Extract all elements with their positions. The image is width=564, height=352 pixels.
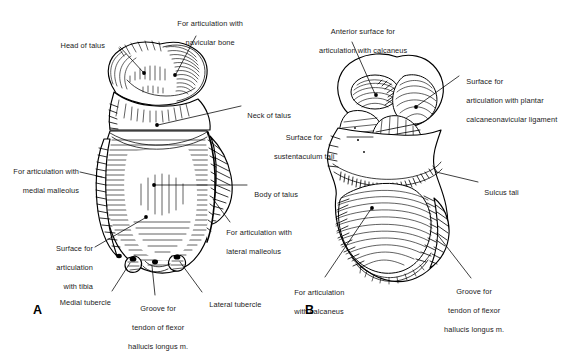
leader-lateral-tubercle	[180, 262, 202, 292]
label-sustentaculum-line1: Surface for	[286, 133, 323, 142]
label-body-of-talus: Body of talus	[250, 180, 340, 199]
label-articulation-medial-malleolus: For articulation with medial malleolus	[0, 157, 79, 195]
panel-letter-a: A	[33, 303, 42, 317]
label-medial-malleolus-line2: medial malleolus	[23, 186, 79, 195]
panel-a-drawing	[96, 41, 232, 273]
label-articulation-navicular-line1: For articulation with	[177, 19, 243, 28]
dot-navicular	[173, 73, 177, 77]
label-plantar-lig-line3: calcaneonavicular ligament	[466, 115, 557, 124]
label-head-of-talus: Head of talus	[10, 31, 105, 50]
label-sulcus-tali-text: Sulcus tali	[484, 188, 519, 197]
dot-neck	[155, 123, 159, 127]
label-artic-calcaneus-line2: with calcaneus	[294, 307, 344, 316]
label-tibia-line2: articulation	[56, 263, 93, 272]
label-groove-b-line2: tendon of flexor	[448, 306, 500, 315]
label-neck-of-talus-text: Neck of talus	[247, 111, 291, 120]
label-surface-sustentaculum-tali: Surface for sustentaculum tali	[258, 123, 346, 161]
foramen-1	[357, 139, 359, 141]
panel-letter-b-text: B	[305, 303, 314, 317]
label-surface-articulation-tibia: Surface for articulation with tibia	[18, 234, 93, 292]
panel-letter-b: B	[305, 303, 314, 317]
label-tibia-line1: Surface for	[56, 244, 93, 253]
groove-marker-a	[152, 260, 158, 265]
label-articulation-lateral-malleolus: For articulation with lateral malleolus	[222, 218, 322, 256]
dot-plantar-lig	[414, 105, 418, 109]
label-articulation-navicular-line2: navicular bone	[186, 38, 235, 47]
dot-anterior-calcaneus	[374, 93, 378, 97]
label-groove-a-line2: tendon of flexor	[132, 323, 184, 332]
panel-b-drawing	[327, 54, 449, 284]
label-groove-a-line1: Groove for	[140, 304, 176, 313]
label-articulation-navicular: For articulation with navicular bone	[153, 9, 263, 47]
label-plantar-lig-line1: Surface for	[466, 77, 503, 86]
label-anterior-calcaneus-line1: Anterior surface for	[331, 27, 395, 36]
label-surface-plantar-calcaneonavicular: Surface for articulation with plantar ca…	[462, 67, 564, 125]
label-body-of-talus-text: Body of talus	[254, 190, 298, 199]
label-lateral-malleolus-line2: lateral malleolus	[226, 247, 281, 256]
label-medial-tubercle: Medial tubercle	[40, 288, 111, 307]
leader-sulcus-tali	[436, 172, 478, 182]
dot-body	[152, 183, 156, 187]
label-groove-b-line1: Groove for	[456, 287, 492, 296]
medial-tubercle-marker	[130, 256, 137, 261]
label-lateral-tubercle: Lateral tubercle	[205, 290, 285, 309]
label-artic-calcaneus-line1: For articulation	[294, 288, 344, 297]
label-plantar-lig-line2: articulation with plantar	[466, 96, 543, 105]
lateral-tubercle-marker	[174, 254, 181, 259]
label-groove-flexor-hallucis-b: Groove for tendon of flexor hallucis lon…	[434, 277, 510, 335]
label-anterior-surface-calcaneus: Anterior surface for articulation with c…	[300, 17, 422, 55]
label-neck-of-talus: Neck of talus	[243, 101, 328, 120]
label-groove-flexor-hallucis-a: Groove for tendon of flexor hallucis lon…	[118, 294, 194, 352]
dot-tibia	[144, 215, 148, 219]
foramen-3	[354, 127, 356, 129]
label-lateral-malleolus-line1: For articulation with	[226, 228, 292, 237]
label-medial-tubercle-text: Medial tubercle	[60, 298, 111, 307]
foramen-2	[363, 151, 365, 153]
label-groove-a-line3: hallucis longus m.	[128, 342, 188, 351]
anterior-calcaneal-facet	[351, 75, 399, 109]
label-lateral-tubercle-text: Lateral tubercle	[209, 300, 261, 309]
label-head-of-talus-text: Head of talus	[60, 41, 105, 50]
label-sustentaculum-line2: sustentaculum tali	[274, 152, 335, 161]
label-articulation-calcaneus: For articulation with calcaneus	[290, 278, 370, 316]
label-sulcus-tali: Sulcus tali	[480, 178, 550, 197]
dot-articulation-calcaneus	[370, 206, 374, 210]
leader-medial-tubercle	[112, 263, 130, 291]
dot-head-of-talus	[142, 71, 146, 75]
label-anterior-calcaneus-line2: articulation with calcaneus	[319, 46, 407, 55]
label-medial-malleolus-line1: For articulation with	[13, 167, 79, 176]
label-groove-b-line3: hallucis longus m.	[444, 325, 504, 334]
tibia-surface-marker	[116, 254, 122, 258]
panel-letter-a-text: A	[33, 303, 42, 317]
